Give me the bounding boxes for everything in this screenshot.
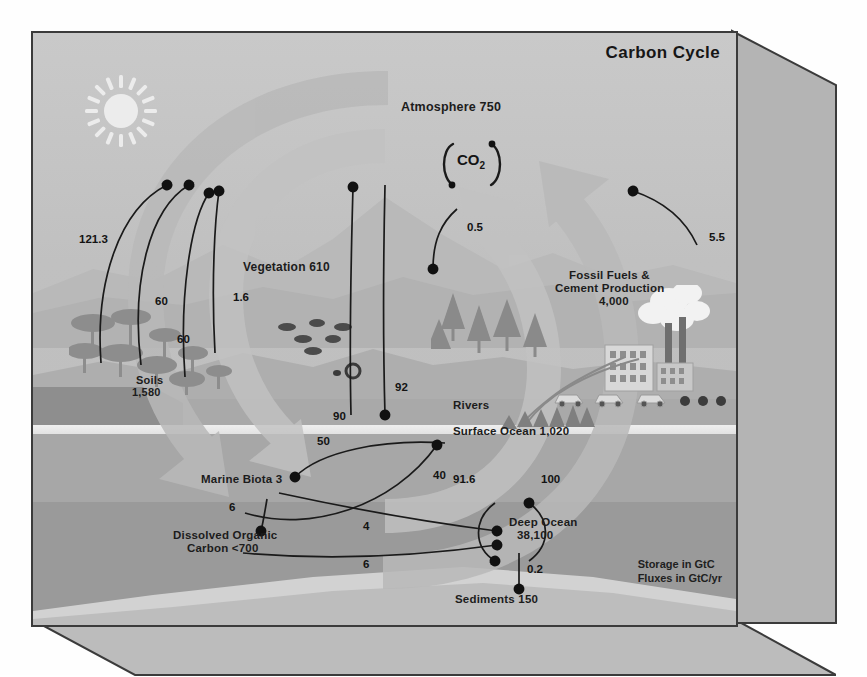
label-fossil-line1: Fossil Fuels & [569,269,650,283]
legend-line-storage: Storage in GtC [638,557,722,571]
flux-60-soils: 60 [177,333,190,345]
flux-100: 100 [541,473,560,485]
flux-90: 90 [333,410,346,422]
flux-50: 50 [317,435,330,447]
label-atmosphere: Atmosphere 750 [401,101,501,115]
label-sediments: Sediments 150 [455,593,538,607]
label-surface-ocean: Surface Ocean 1,020 [453,425,569,439]
label-deep-ocean-line2: 38,100 [517,529,553,543]
co2-text: CO [457,151,480,168]
seabed [33,555,736,625]
field-object [329,361,365,383]
flux-6-biota-doc: 6 [229,501,235,513]
box-floor [31,619,836,677]
box-side [730,29,840,629]
surface-ocean-region [33,434,736,502]
label-fossil-line2: Cement Production [555,282,664,296]
label-fossil-line3: 4,000 [599,295,629,309]
flux-40: 40 [433,469,446,481]
co2-subscript: 2 [480,160,486,171]
flux-92: 92 [395,381,408,393]
flux-4: 4 [363,520,369,532]
flux-91-6: 91.6 [453,473,475,485]
sun-icon [85,75,157,147]
label-doc-line1: Dissolved Organic [173,529,277,543]
label-rivers: Rivers [453,399,489,413]
river-delta [429,353,649,435]
flux-60-vegetation: 60 [155,295,168,307]
forest-left [69,291,259,401]
flux-0-2: 0.2 [527,563,543,575]
label-doc-line2: Carbon <700 [187,542,259,556]
legend-line-fluxes: Fluxes in GtC/yr [638,571,722,585]
flux-0-5: 0.5 [467,221,483,233]
label-vegetation: Vegetation 610 [243,261,330,275]
page-title: Carbon Cycle [606,43,720,63]
label-marine-biota: Marine Biota 3 [201,473,282,487]
label-deep-ocean-line1: Deep Ocean [509,516,577,530]
diagram-box: Carbon Cycle Atmosphere 750 CO2 121.3 60… [31,31,738,627]
flux-5-5: 5.5 [709,231,725,243]
flux-1-6: 1.6 [233,291,249,303]
flux-121-3: 121.3 [79,233,108,245]
flux-6-doc-deep: 6 [363,558,369,570]
label-co2: CO2 [457,151,485,171]
legend: Storage in GtC Fluxes in GtC/yr [638,557,722,585]
livestock [275,317,365,357]
label-soils-line2: 1,580 [132,386,161,400]
